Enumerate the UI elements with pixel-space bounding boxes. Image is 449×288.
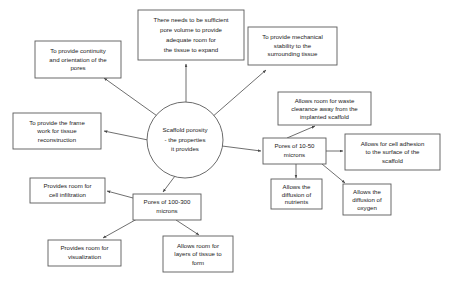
node-layers-of-tissue[interactable]: Allows room for layers of tissue to form [163,236,233,272]
connector-center-to-pores-100-300 [163,176,175,192]
node-label-waste-clearance-line2: clearance away from the [291,105,358,112]
node-label-diffusion-nutrients-line2: diffusion of [282,191,312,198]
node-label-continuity-orientation-line2: and orientation of the [49,56,107,63]
node-label-pores-10-50-line2: microns [284,151,305,158]
node-label-mechanical-stability-line2: stability to the [274,42,312,49]
node-label-visualization-line2: visualization [68,253,101,260]
node-label-frame-work-line3: reconstruction [38,136,76,143]
connector-center-to-continuity [104,78,160,118]
node-label-visualization-line1: Provides room for [60,244,108,251]
node-label-frame-work-line2: work for tissue [36,127,77,134]
node-mechanical-stability[interactable]: To provide mechanical stability to the s… [248,27,337,65]
node-label-cell-adhesion-line2: to the surface of the [366,148,420,155]
connector-pores100300-to-visualization [103,219,137,238]
node-label-cell-adhesion-line3: scaffold [382,157,403,164]
node-waste-clearance[interactable]: Allows room for waste clearance away fro… [278,92,371,125]
connector-pores1050-to-diffusion-oxygen [322,164,345,183]
connector-center-to-mechanical-stability [211,70,266,118]
node-visualization[interactable]: Provides room for visualization [48,240,121,266]
node-label-pore-volume-line2: pore volume to provide [160,26,223,33]
connector-pores100300-to-layers-of-tissue [176,220,199,235]
connector-center-to-pores-10-50 [222,146,261,151]
node-scaffold-porosity-center[interactable]: Scaffold porosity - the properties it pr… [147,102,223,178]
node-diffusion-nutrients[interactable]: Allows the diffusion of nutrients [271,179,322,209]
node-label-mechanical-stability-line3: surrounding tissue [268,50,318,57]
node-label-waste-clearance-line1: Allows room for waste [295,97,355,104]
mindmap-diagram: To provide continuity and orientation of… [0,0,449,288]
mindmap-canvas: To provide continuity and orientation of… [0,0,449,288]
node-label-diffusion-nutrients-line3: nutrients [285,198,308,205]
node-frame-work[interactable]: To provide the frame work for tissue rec… [13,113,101,149]
node-label-diffusion-oxygen-line1: Allows the [353,188,381,195]
connector-pores1050-to-waste-clearance [287,126,315,138]
node-label-layers-of-tissue-line1: Allows room for [177,242,219,249]
node-label-cell-infiltration-line2: cell infiltration [49,191,86,198]
node-cell-adhesion[interactable]: Allows for cell adhesion to the surface … [345,134,440,170]
node-pore-volume[interactable]: There needs to be sufficient pore volume… [138,10,244,60]
center-label-line2: - the properties [165,136,206,143]
node-label-pore-volume-line4: the tissue to expand [164,46,219,53]
node-label-mechanical-stability-line1: To provide mechanical [262,33,323,40]
node-label-frame-work-line1: To provide the frame [29,119,85,126]
node-label-pores-10-50-line1: Pores of 10-50 [275,142,316,149]
connector-pores100300-to-cell-infiltration [107,191,133,198]
node-label-continuity-orientation-line1: To provide continuity [50,47,107,54]
node-label-diffusion-oxygen-line3: oxygen [357,204,377,211]
node-label-layers-of-tissue-line3: form [192,259,204,266]
node-label-pores-100-300-line2: microns [156,207,177,214]
center-label-line3: it provides [171,145,199,152]
node-label-cell-adhesion-line1: Allows for cell adhesion [361,140,425,147]
node-pores-10-50[interactable]: Pores of 10-50 microns [263,138,326,164]
node-label-continuity-orientation-line3: pores [70,64,85,71]
node-label-diffusion-oxygen-line2: diffusion of [352,196,382,203]
node-pores-100-300[interactable]: Pores of 100-300 microns [133,194,201,220]
node-label-cell-infiltration-line1: Provides room for [43,182,91,189]
connector-center-to-frame-work [104,131,148,140]
node-label-pores-100-300-line1: Pores of 100-300 [144,198,191,205]
node-label-pore-volume-line1: There needs to be sufficient [153,16,228,23]
node-continuity-orientation[interactable]: To provide continuity and orientation of… [35,41,121,78]
center-label-line1: Scaffold porosity [163,126,209,133]
node-diffusion-oxygen[interactable]: Allows the diffusion of oxygen [343,184,391,215]
node-label-waste-clearance-line3: implanted scaffold [300,113,349,120]
node-label-diffusion-nutrients-line1: Allows the [283,183,311,190]
node-cell-infiltration[interactable]: Provides room for cell infiltration [30,178,105,203]
node-label-pore-volume-line3: adequate room for [166,36,216,43]
node-label-layers-of-tissue-line2: layers of tissue to [174,250,222,257]
